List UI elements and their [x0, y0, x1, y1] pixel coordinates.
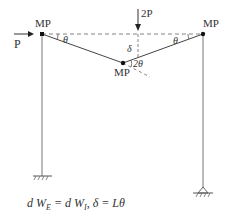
angle-arc-right — [188, 34, 189, 39]
two-theta-label: 2θ — [133, 58, 143, 69]
vertical-load-label: 2P — [141, 7, 153, 19]
horizontal-load-label: P — [14, 37, 21, 51]
work-equation: d WE = d WI, δ = Lθ — [27, 196, 125, 212]
arrow-right-icon — [28, 31, 34, 37]
frame-diagram: 2P P MP MP MP θ θ 2θ δ — [0, 0, 232, 215]
deformed-beam-left — [42, 34, 123, 63]
arrow-down-icon — [135, 24, 141, 31]
hinge-mid-node — [121, 61, 125, 65]
mp-right-label: MP — [203, 17, 219, 29]
theta-right-label: θ — [173, 35, 178, 46]
fixed-support-hatch — [34, 176, 48, 180]
eq-middle: = d W — [51, 196, 84, 210]
theta-left-label: θ — [63, 34, 68, 45]
mp-mid-label: MP — [114, 66, 130, 78]
eq-lhs: d W — [27, 196, 46, 210]
angle-arc-mid — [131, 60, 132, 67]
hinge-left-node — [40, 32, 44, 36]
pinned-support-hatch — [196, 193, 210, 197]
hinge-right-node — [201, 32, 205, 36]
mp-left-label: MP — [35, 17, 51, 29]
angle-arc-left — [57, 34, 58, 40]
delta-label: δ — [127, 43, 132, 54]
eq-rest: , δ = Lθ — [87, 196, 125, 210]
